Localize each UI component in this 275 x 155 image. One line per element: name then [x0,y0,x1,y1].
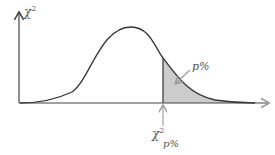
chi-square-diagram [0,0,275,155]
critical-value-label: χ2p% [152,126,164,141]
critical-subscript: p% [163,138,179,149]
y-label-exponent: 2 [31,4,36,13]
tail-area-label: p% [192,60,210,73]
critical-exponent: 2 [159,126,164,135]
density-curve [20,27,255,103]
y-axis-label: χ2 [24,4,36,19]
